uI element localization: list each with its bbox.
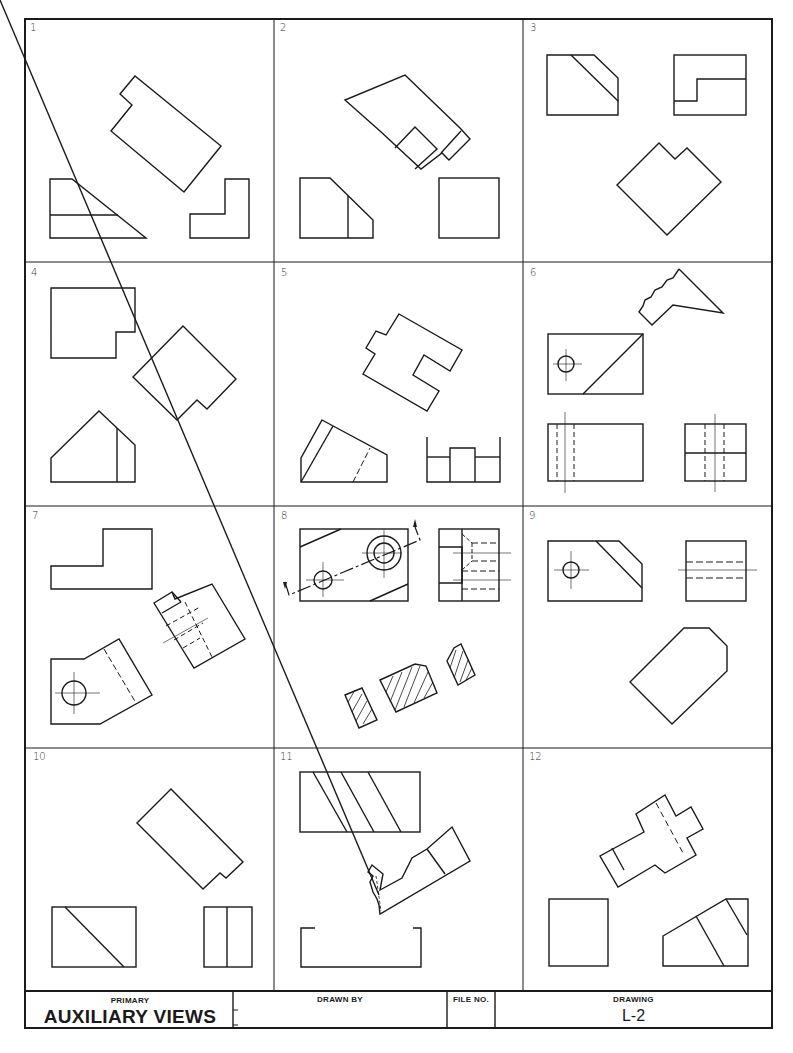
drawing-sheet: 1 2 3 4 5 6 7 8 9 10 11 12 PRIMARY AUXIL… xyxy=(0,0,793,1053)
drawing-canvas xyxy=(0,0,793,1053)
problem-1-drawing xyxy=(50,76,249,238)
sheet-border xyxy=(25,19,772,1028)
problem-number-3: 3 xyxy=(530,22,536,33)
problem-7-drawing xyxy=(51,529,245,724)
problem-6-drawing xyxy=(548,269,746,493)
problem-12-drawing xyxy=(549,795,748,966)
problem-number-6: 6 xyxy=(530,267,536,278)
drawing-number: L-2 xyxy=(495,1007,772,1025)
problem-number-10: 10 xyxy=(33,751,46,762)
problem-3-drawing xyxy=(547,55,746,235)
problem-9-drawing xyxy=(548,541,757,724)
problem-8-drawing xyxy=(283,519,511,728)
problem-4-drawing xyxy=(51,288,236,482)
problem-10-drawing xyxy=(52,789,252,967)
problem-number-8: 8 xyxy=(281,510,287,521)
problem-number-2: 2 xyxy=(280,22,286,33)
drawn-by-label: DRAWN BY xyxy=(233,995,447,1004)
problem-number-12: 12 xyxy=(529,751,542,762)
problem-11-drawing xyxy=(0,0,470,967)
title-block-title: AUXILIARY VIEWS xyxy=(27,1006,233,1028)
problem-number-11: 11 xyxy=(280,751,293,762)
problem-5-drawing xyxy=(301,314,500,482)
drawing-label: DRAWING xyxy=(495,995,772,1004)
file-no-label: FILE NO. xyxy=(447,995,495,1004)
problem-2-drawing xyxy=(300,75,499,238)
problem-number-1: 1 xyxy=(30,22,36,33)
problem-number-7: 7 xyxy=(32,510,38,521)
problem-number-4: 4 xyxy=(31,267,37,278)
problem-number-5: 5 xyxy=(281,267,287,278)
problem-number-9: 9 xyxy=(529,510,535,521)
title-block-subtitle: PRIMARY xyxy=(27,996,233,1005)
